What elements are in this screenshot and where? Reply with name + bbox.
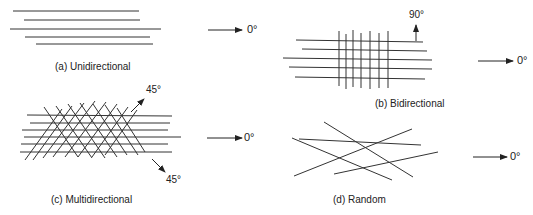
multidirectional-fibers	[20, 101, 181, 160]
diagram-graphics	[0, 0, 533, 215]
label-90deg-b: 90°	[409, 9, 424, 20]
bidirectional-fibers	[283, 30, 432, 89]
arrow-45deg-down-c	[152, 159, 165, 172]
caption-unidirectional: (a) Unidirectional	[55, 61, 131, 72]
caption-bidirectional: (b) Bidirectional	[375, 98, 444, 109]
label-45deg-up-c: 45°	[146, 84, 161, 95]
arrow-45deg-up-c	[131, 99, 144, 112]
label-0deg-d: 0°	[510, 150, 521, 162]
label-0deg-c: 0°	[244, 131, 255, 143]
caption-random: (d) Random	[333, 194, 386, 205]
random-fibers	[292, 122, 438, 180]
fiber-orientation-diagram: 0° (a) Unidirectional 90° 0° (b) Bidirec…	[0, 0, 533, 215]
label-0deg-b: 0°	[517, 54, 528, 66]
unidirectional-fibers	[10, 11, 161, 44]
caption-multidirectional: (c) Multidirectional	[51, 194, 132, 205]
label-45deg-down-c: 45°	[166, 174, 181, 185]
label-0deg-a: 0°	[247, 23, 258, 35]
